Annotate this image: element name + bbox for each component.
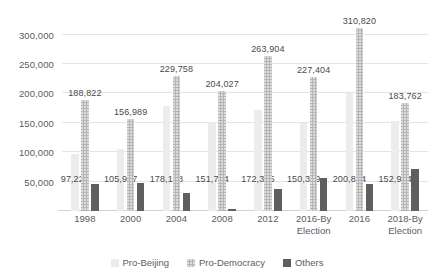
x-axis-tick-label: 1998	[62, 213, 108, 225]
bar-group: 200,814310,820	[337, 20, 383, 211]
bar-value-label: 183,762	[389, 91, 422, 101]
bar-pro-beijing	[163, 106, 171, 211]
bar-value-label: 227,404	[297, 65, 330, 75]
legend-item-pro-democracy[interactable]: Pro-Democracy	[187, 257, 265, 268]
x-axis-tick-label: 2004	[154, 213, 200, 225]
bar-pro-democracy	[173, 76, 181, 211]
x-axis-tick-label: 2016-By Election	[291, 213, 337, 237]
legend-label: Pro-Democracy	[199, 257, 265, 268]
bar-pro-democracy	[356, 28, 364, 211]
bar-chart: 50,000100,000150,000200,000250,000300,00…	[0, 0, 434, 272]
bar-pro-democracy	[127, 119, 135, 211]
bar-group: 150,329227,404	[291, 20, 337, 211]
bar-pro-beijing	[346, 93, 354, 211]
legend-swatch-icon	[187, 259, 195, 267]
bar-others	[137, 183, 145, 211]
y-axis-tick-label: 300,000	[19, 29, 54, 40]
y-axis-tick-label: 100,000	[19, 147, 54, 158]
bar-others	[91, 184, 99, 211]
x-axis-tick-label: 2018-By Election	[382, 213, 428, 237]
bar-pro-beijing	[208, 122, 216, 211]
legend-swatch-icon	[283, 259, 291, 267]
bar-value-label: 229,758	[160, 64, 193, 74]
bar-others	[411, 169, 419, 211]
bar-pro-beijing	[300, 123, 308, 211]
bar-value-label: 204,027	[206, 79, 239, 89]
bar-group: 151,764204,027	[199, 20, 245, 211]
legend-item-pro-beijing[interactable]: Pro-Beijing	[111, 257, 169, 268]
y-axis: 50,000100,000150,000200,000250,000300,00…	[0, 20, 60, 211]
x-axis-tick-label: 2000	[108, 213, 154, 225]
bar-group: 172,385263,904	[245, 20, 291, 211]
x-axis-tick-label: 2016	[337, 213, 383, 225]
legend-label: Pro-Beijing	[123, 257, 169, 268]
bar-group: 178,168229,758	[154, 20, 200, 211]
y-axis-tick-label: 50,000	[24, 176, 54, 187]
bar-others	[183, 193, 191, 211]
y-axis-tick-label: 250,000	[19, 59, 54, 70]
x-axis: 199820002004200820122016-By Election2016…	[62, 213, 428, 245]
bar-pro-beijing	[254, 110, 262, 211]
plot-area: 97,226188,822105,947156,989178,168229,75…	[62, 20, 428, 211]
bar-pro-democracy	[310, 77, 318, 211]
legend-label: Others	[295, 257, 324, 268]
bar-value-label: 263,904	[251, 44, 284, 54]
bar-value-label: 310,820	[343, 16, 376, 26]
x-axis-tick-label: 2012	[245, 213, 291, 225]
bar-others	[228, 209, 236, 211]
y-axis-tick-label: 200,000	[19, 88, 54, 99]
bar-others	[320, 178, 328, 211]
bar-pro-democracy	[81, 100, 89, 211]
legend-item-others[interactable]: Others	[283, 257, 324, 268]
y-axis-tick-label: 150,000	[19, 117, 54, 128]
chart-legend: Pro-BeijingPro-DemocracyOthers	[0, 257, 434, 268]
bar-pro-democracy	[218, 91, 226, 211]
bar-group: 152,904183,762	[382, 20, 428, 211]
bar-pro-democracy	[401, 103, 409, 211]
bar-group: 105,947156,989	[108, 20, 154, 211]
bar-pro-beijing	[391, 121, 399, 211]
bar-pro-democracy	[264, 56, 272, 211]
bar-others	[274, 189, 282, 211]
bar-others	[366, 184, 374, 211]
bar-value-label: 156,989	[114, 107, 147, 117]
bar-group: 97,226188,822	[62, 20, 108, 211]
bar-value-label: 188,822	[68, 88, 101, 98]
legend-swatch-icon	[111, 259, 119, 267]
x-axis-tick-label: 2008	[199, 213, 245, 225]
